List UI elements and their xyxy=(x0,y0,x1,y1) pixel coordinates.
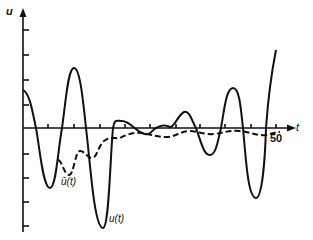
series-ubar-label: ū(t) xyxy=(61,176,76,187)
x-axis-arrow-icon xyxy=(287,125,296,132)
x-axis xyxy=(23,124,296,132)
series-u-line xyxy=(23,50,276,228)
y-axis-label: u xyxy=(6,5,13,17)
x-axis-label: t xyxy=(296,121,299,133)
y-axis-arrow-icon xyxy=(20,8,27,17)
chart-canvas xyxy=(0,0,313,240)
series-u-label: u(t) xyxy=(109,213,124,224)
y-axis xyxy=(20,8,30,232)
x-tick-label-50: 50 xyxy=(270,132,282,144)
